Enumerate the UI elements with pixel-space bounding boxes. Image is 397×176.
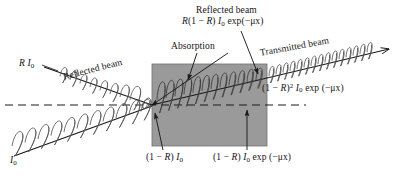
formula-bracket-open: (1 − (146, 152, 165, 162)
formula-intensity-subscript: 0 (31, 62, 35, 70)
leader-reflected-left-intensity (42, 65, 58, 71)
figure-canvas: Reflected beam R(1 − R) I0 exp(−μx) Abso… (0, 0, 397, 176)
incident-intensity-label: I0 (10, 155, 17, 167)
formula-bracket-open: (1 − (262, 83, 281, 93)
incident-beam (12, 98, 152, 156)
front-surface-formula: (1 − R) I0 (146, 152, 183, 164)
incident-ray-axis (14, 106, 152, 156)
reflected-intensity-label: R I0 (19, 58, 34, 70)
absorbing-slab (152, 64, 267, 146)
reflected-beam-top-formula: R(1 − R) I0 exp(−μx) (182, 16, 264, 28)
transmitted-beam-formula: (1 − R)2 I0 exp (−μx) (262, 82, 344, 95)
formula-intensity-subscript: 0 (179, 156, 183, 164)
incident-wave-helix (12, 98, 151, 155)
formula-exponential-term: exp (−μx) (250, 152, 291, 162)
formula-bracket-open: (1 − (188, 16, 207, 26)
absorption-label: Absorption (171, 41, 215, 52)
formula-bracket-close: ) (212, 16, 215, 26)
reflected-beam-top-label: Reflected beam (196, 5, 257, 16)
formula-exponential-term: exp(−μx) (225, 16, 264, 26)
formula-intensity-subscript: 0 (13, 159, 17, 167)
back-surface-formula: (1 − R) I0 exp (−μx) (213, 152, 291, 164)
formula-exponential-term: exp (−μx) (303, 83, 344, 93)
formula-bracket-open: (1 − (213, 152, 232, 162)
